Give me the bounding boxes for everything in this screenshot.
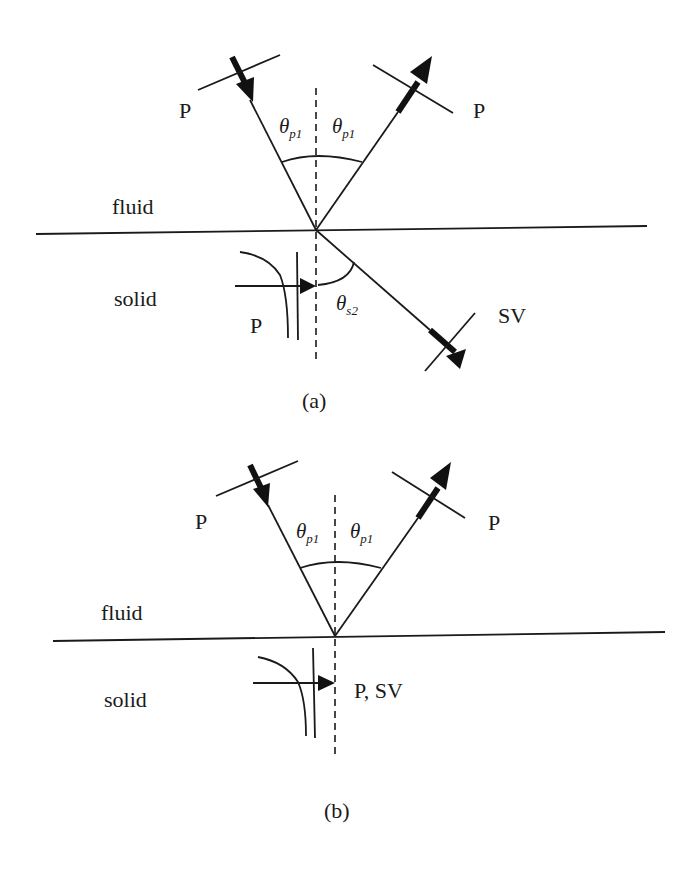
evanescent-arrow-head-icon xyxy=(318,675,335,691)
reflected-wave-label: P xyxy=(488,510,500,535)
evanescent-curved-front xyxy=(240,252,288,338)
reflected-arrow-shaft xyxy=(418,488,438,518)
solid-label: solid xyxy=(104,687,147,712)
evanescent-curved-front xyxy=(258,657,306,736)
reflected-wave-label: P xyxy=(473,98,485,123)
incident-wave-label: P xyxy=(195,509,207,534)
evanescent-arrow-head-icon xyxy=(300,278,316,294)
angle-label-reflected: θp1 xyxy=(350,519,373,546)
angle-label-reflected: θp1 xyxy=(332,114,355,141)
transmitted-arrow-head-icon xyxy=(446,349,466,369)
fluid-label: fluid xyxy=(112,194,154,219)
angle-label-incident: θp1 xyxy=(296,519,319,546)
evanescent-wave-label: P xyxy=(250,313,262,338)
panel-a-caption: (a) xyxy=(302,388,326,413)
incident-arrow-head-icon xyxy=(253,483,270,507)
fluid-label: fluid xyxy=(101,600,143,625)
figure-canvas: fluid solid P P P SV θp1 θp1 θs2 (a) flu… xyxy=(0,0,695,871)
evanescent-straight-front xyxy=(297,252,298,340)
panel-b: fluid solid P P P, SV θp1 θp1 (b) xyxy=(53,461,665,823)
transmitted-ray xyxy=(316,230,430,330)
reflected-arrow-head-icon xyxy=(430,462,451,490)
incident-arrow-head-icon xyxy=(236,77,254,102)
panel-b-caption: (b) xyxy=(324,798,350,823)
interface-line xyxy=(53,632,665,641)
evanescent-wave-label: P, SV xyxy=(354,678,403,703)
angle-arc-s2 xyxy=(318,262,354,285)
evanescent-straight-front xyxy=(313,648,315,738)
angle-arc-p1 xyxy=(300,562,381,568)
incident-wave-label: P xyxy=(179,98,191,123)
transmitted-wavefront xyxy=(425,313,475,371)
interface-line xyxy=(36,226,647,234)
angle-label-incident: θp1 xyxy=(279,114,302,141)
reflected-ray xyxy=(316,112,398,230)
solid-label: solid xyxy=(114,286,157,311)
reflected-wavefront xyxy=(392,472,465,518)
reflected-ray xyxy=(335,518,418,636)
reflected-arrow-head-icon xyxy=(410,56,432,84)
angle-arc-p1 xyxy=(282,156,362,162)
panel-a: fluid solid P P P SV θp1 θp1 θs2 (a) xyxy=(36,55,647,413)
transmitted-wave-label: SV xyxy=(498,303,526,328)
angle-label-transmitted: θs2 xyxy=(336,291,358,318)
